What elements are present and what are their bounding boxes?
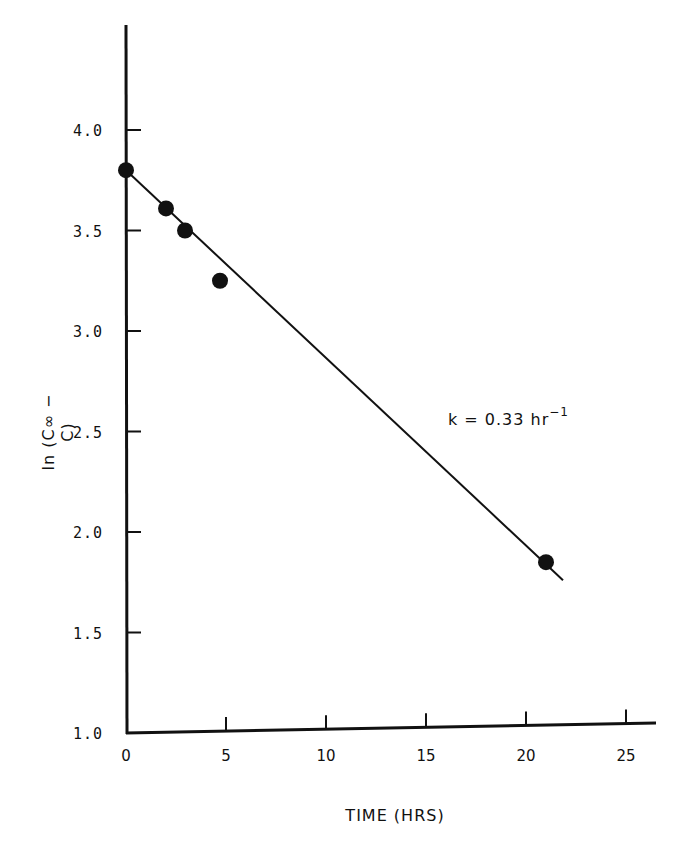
rate-constant-annotation: k = 0.33 hr−1: [448, 408, 569, 429]
data-point: [212, 273, 228, 289]
y-axis-label: ln (C∞ − C): [39, 387, 63, 477]
data-point: [538, 554, 554, 570]
svg-text:2.5: 2.5: [73, 424, 103, 442]
annotation-exponent: −1: [549, 405, 569, 419]
svg-text:5: 5: [221, 747, 231, 765]
ticks: 1.01.52.02.53.03.54.00510152025: [73, 122, 636, 765]
svg-text:2.0: 2.0: [73, 524, 103, 542]
data-point: [177, 223, 193, 239]
data-point: [118, 162, 134, 178]
svg-text:1.0: 1.0: [73, 725, 103, 743]
svg-text:3.0: 3.0: [73, 323, 103, 341]
svg-text:0: 0: [121, 747, 131, 765]
svg-text:4.0: 4.0: [73, 122, 103, 140]
svg-text:1.5: 1.5: [73, 625, 103, 643]
svg-text:3.5: 3.5: [73, 223, 103, 241]
axes: [126, 25, 656, 734]
svg-text:20: 20: [516, 747, 535, 765]
svg-text:25: 25: [616, 747, 635, 765]
svg-text:10: 10: [316, 747, 335, 765]
svg-text:15: 15: [416, 747, 435, 765]
chart-plot: 1.01.52.02.53.03.54.00510152025: [0, 0, 682, 850]
data-point: [158, 200, 174, 216]
x-axis-label: TIME (HRS): [300, 806, 490, 825]
annotation-text: k = 0.33 hr: [448, 410, 549, 429]
